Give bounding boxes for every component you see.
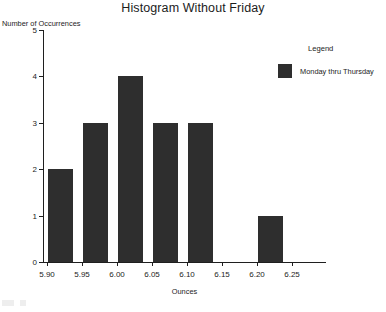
x-axis-line bbox=[43, 262, 326, 263]
bar bbox=[83, 123, 108, 262]
x-tick-label: 6.05 bbox=[144, 270, 160, 279]
legend-entry-label: Monday thru Thursday bbox=[300, 67, 374, 76]
scan-artifact bbox=[2, 300, 36, 306]
x-tick-mark bbox=[82, 262, 83, 266]
x-tick-label: 5.95 bbox=[74, 270, 90, 279]
x-tick-mark bbox=[257, 262, 258, 266]
x-tick-label: 5.90 bbox=[39, 270, 55, 279]
y-tick-mark bbox=[39, 30, 43, 31]
y-tick-mark bbox=[39, 123, 43, 124]
bar bbox=[118, 76, 143, 262]
histogram-chart: Histogram Without Friday Number of Occur… bbox=[0, 0, 386, 312]
x-tick-label: 6.25 bbox=[284, 270, 300, 279]
bar bbox=[258, 216, 283, 262]
x-tick-label: 6.20 bbox=[249, 270, 265, 279]
y-tick-label: 2 bbox=[33, 165, 37, 174]
y-tick-mark bbox=[39, 216, 43, 217]
y-tick-label: 1 bbox=[33, 211, 37, 220]
y-tick-label: 4 bbox=[33, 72, 37, 81]
legend-swatch-monday-thru-thursday bbox=[278, 64, 292, 78]
bar bbox=[48, 169, 73, 262]
y-tick-label: 0 bbox=[33, 258, 37, 267]
chart-title: Histogram Without Friday bbox=[0, 1, 386, 15]
y-tick-mark bbox=[39, 262, 43, 263]
x-tick-mark bbox=[117, 262, 118, 266]
bar bbox=[153, 123, 178, 262]
x-axis-title: Ounces bbox=[43, 287, 326, 296]
y-tick-mark bbox=[39, 76, 43, 77]
y-axis-title: Number of Occurrences bbox=[2, 19, 80, 28]
x-tick-mark bbox=[187, 262, 188, 266]
x-tick-mark bbox=[222, 262, 223, 266]
bar bbox=[188, 123, 213, 262]
x-tick-mark bbox=[47, 262, 48, 266]
y-tick-label: 3 bbox=[33, 118, 37, 127]
x-tick-mark bbox=[152, 262, 153, 266]
x-tick-label: 6.00 bbox=[109, 270, 125, 279]
x-tick-label: 6.15 bbox=[214, 270, 230, 279]
x-tick-mark bbox=[292, 262, 293, 266]
x-tick-label: 6.10 bbox=[179, 270, 195, 279]
legend-title: Legend bbox=[308, 44, 333, 53]
y-tick-label: 5 bbox=[33, 26, 37, 35]
y-tick-mark bbox=[39, 169, 43, 170]
